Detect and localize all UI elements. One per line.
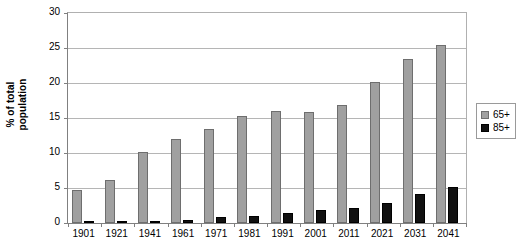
bar-65plus-2021 [370,82,380,223]
x-axis-tick-label: 2011 [332,228,365,240]
bar-group [267,13,300,223]
bar-group [400,13,433,223]
y-axis-title-line-1: % of total [5,82,16,128]
bar-group [68,13,101,223]
x-axis-tick-mark [168,223,169,227]
y-axis-tick-labels: 051015202530 [34,0,64,249]
legend-label: 65+ [493,110,510,120]
x-axis-tick-mark [367,223,368,227]
bar-85plus-1971 [216,217,226,223]
plot-area [67,12,467,224]
y-axis-tick-label: 5 [34,182,60,192]
bar-65plus-2031 [403,59,413,223]
bar-65plus-2041 [436,45,446,223]
legend: 65+85+ [476,103,516,139]
x-axis-tick-mark [466,223,467,227]
bar-65plus-1961 [171,139,181,223]
bar-85plus-1981 [249,216,259,223]
legend-swatch-icon [481,124,489,132]
bar-65plus-1921 [105,180,115,223]
bar-group [433,13,466,223]
y-axis-tick-label: 10 [34,147,60,157]
y-axis-tick-label: 15 [34,112,60,122]
legend-label: 85+ [493,123,510,133]
y-axis-tick-label: 0 [34,217,60,227]
x-axis-tick-mark [68,223,69,227]
bar-group [168,13,201,223]
bar-65plus-1981 [237,116,247,223]
x-axis-tick-label: 1961 [167,228,200,240]
bar-85plus-2031 [415,194,425,223]
x-axis-tick-label: 2001 [299,228,332,240]
x-axis-tick-mark [234,223,235,227]
x-axis-tick-mark [333,223,334,227]
x-axis-tick-mark [201,223,202,227]
bar-85plus-2041 [448,187,458,223]
x-axis-tick-mark [101,223,102,227]
y-axis-title-line-2: population [16,78,27,130]
bar-85plus-2001 [316,210,326,223]
x-axis-tick-label: 1981 [233,228,266,240]
bar-85plus-1961 [183,220,193,224]
bar-group [201,13,234,223]
bar-65plus-2001 [304,112,314,223]
x-axis-tick-mark [267,223,268,227]
bar-group [300,13,333,223]
bar-65plus-1971 [204,129,214,223]
legend-item-85plus: 85+ [481,121,510,134]
bar-65plus-2011 [337,105,347,223]
bar-group [134,13,167,223]
x-axis-tick-label: 1941 [133,228,166,240]
bar-85plus-1901 [84,221,94,223]
bar-85plus-1921 [117,221,127,223]
bar-65plus-1941 [138,152,148,223]
x-axis-tick-label: 1921 [100,228,133,240]
x-axis-tick-mark [134,223,135,227]
legend-item-65plus: 65+ [481,108,510,121]
x-axis-tick-mark [300,223,301,227]
bar-85plus-1941 [150,221,160,223]
bar-group [234,13,267,223]
x-axis-tick-label: 1991 [266,228,299,240]
y-axis-tick-label: 25 [34,42,60,52]
x-axis-tick-label: 2021 [366,228,399,240]
x-axis-tick-label: 2031 [399,228,432,240]
x-axis-tick-label: 2041 [432,228,465,240]
x-axis-tick-labels: 1901192119411961197119811991200120112021… [67,228,465,246]
bars-layer [68,13,466,223]
bar-85plus-2011 [349,208,359,223]
y-axis-tick-label: 30 [34,7,60,17]
x-axis-tick-mark [400,223,401,227]
bar-group [367,13,400,223]
x-axis-tick-label: 1971 [200,228,233,240]
bar-85plus-1991 [283,213,293,224]
bar-chart: % of total population 051015202530 19011… [0,0,516,249]
bar-group [101,13,134,223]
x-axis-tick-mark [433,223,434,227]
legend-swatch-icon [481,111,489,119]
x-axis-tick-label: 1901 [67,228,100,240]
bar-group [333,13,366,223]
y-axis-tick-label: 20 [34,77,60,87]
bar-65plus-1901 [72,190,82,223]
y-axis-title: % of total population [0,0,34,249]
bar-65plus-1991 [271,111,281,223]
bar-85plus-2021 [382,203,392,223]
